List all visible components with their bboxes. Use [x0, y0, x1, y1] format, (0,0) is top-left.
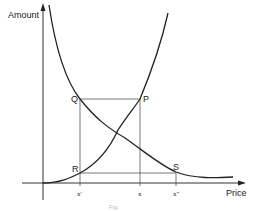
figure-caption: Fig.	[109, 204, 119, 210]
point-label-s: S	[173, 163, 179, 172]
tick-label-x-prime: x'	[77, 191, 82, 198]
y-axis-arrow-icon	[41, 3, 46, 11]
x-axis-arrow-icon	[238, 181, 246, 186]
x-axis-label: Price	[226, 189, 247, 198]
y-axis-label: Amount	[8, 11, 39, 20]
point-label-r: R	[72, 165, 79, 174]
decreasing-curve	[49, 5, 233, 178]
point-label-q: Q	[71, 95, 78, 104]
increasing-curve	[43, 13, 168, 183]
point-label-p: P	[143, 95, 149, 104]
tick-label-x-double-prime: x"	[173, 191, 179, 198]
diagram-canvas: Amount Price Q P R S x' x x" Fig.	[0, 0, 254, 211]
tick-label-x: x	[138, 191, 142, 198]
diagram-svg	[0, 0, 254, 211]
